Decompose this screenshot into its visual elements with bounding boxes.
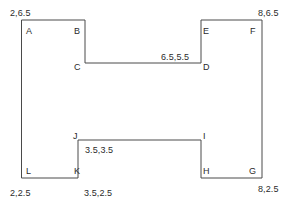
vertex-label-a: A bbox=[26, 26, 32, 36]
vertex-label-b: B bbox=[74, 26, 80, 36]
coordinate-label-notch-bottom: 3.5,3.5 bbox=[85, 145, 113, 155]
vertex-label-l: L bbox=[26, 166, 31, 176]
coordinate-label-top-right: 8,6.5 bbox=[258, 8, 279, 18]
vertex-label-c: C bbox=[74, 62, 81, 72]
vertex-label-h: H bbox=[203, 166, 210, 176]
polygon-outline-path bbox=[22, 20, 262, 178]
vertex-label-j: J bbox=[73, 131, 78, 141]
coordinate-label-notch-top: 6.5,5.5 bbox=[161, 52, 189, 62]
vertex-label-f: F bbox=[250, 26, 256, 36]
vertex-label-k: K bbox=[74, 166, 80, 176]
coordinate-label-bottom-mid: 3.5,2.5 bbox=[84, 188, 112, 198]
vertex-label-e: E bbox=[203, 26, 209, 36]
vertex-label-i: I bbox=[203, 131, 206, 141]
vertex-label-d: D bbox=[203, 62, 210, 72]
vertex-label-g: G bbox=[249, 166, 256, 176]
coordinate-label-bottom-right: 8,2.5 bbox=[258, 184, 279, 194]
diagram-canvas: A B C D E F G H I J K L 2,6.5 8,6.5 6.5,… bbox=[0, 0, 297, 204]
coordinate-label-top-left: 2,6.5 bbox=[10, 8, 31, 18]
coordinate-label-bottom-left: 2,2.5 bbox=[10, 188, 31, 198]
